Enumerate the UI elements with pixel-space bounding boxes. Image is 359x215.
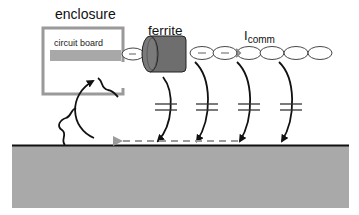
return-path xyxy=(59,78,118,145)
squiggle-ground xyxy=(59,108,76,145)
common-mode-current-diagram: enclosure circuit board ferrite Icomm xyxy=(0,0,359,215)
coupling-arrows xyxy=(158,62,292,141)
ground-plane-body xyxy=(12,146,349,208)
ferrite-label: ferrite xyxy=(148,23,183,38)
cable-loop xyxy=(284,47,308,60)
stray-capacitors xyxy=(155,104,302,110)
ferrite-core xyxy=(142,36,186,72)
cable-loop xyxy=(308,47,332,60)
coupling-arrow xyxy=(195,62,208,141)
ground-plane xyxy=(12,146,349,209)
coupling-arrow xyxy=(279,62,292,141)
common-mode-current-label: Icomm xyxy=(244,28,275,45)
cable-loop xyxy=(260,47,284,60)
current-subscript: comm xyxy=(248,34,275,45)
return-arrow xyxy=(75,81,94,138)
coupling-arrow xyxy=(158,77,171,141)
coupling-arrow xyxy=(237,62,250,141)
circuit-board-label: circuit board xyxy=(54,38,103,48)
circuit-board xyxy=(50,50,121,61)
enclosure-label: enclosure xyxy=(55,6,116,22)
capacitor-icon xyxy=(155,104,177,110)
